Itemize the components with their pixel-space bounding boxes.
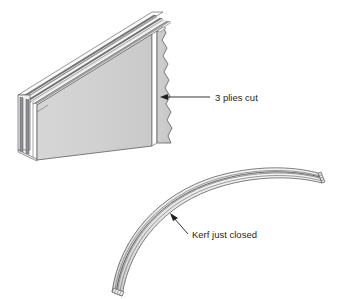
left-edge-ply-dark-2 bbox=[26, 99, 29, 154]
flat-plywood-panel bbox=[18, 12, 172, 161]
plies-cut-label: 3 plies cut bbox=[215, 92, 258, 103]
diagram-canvas: 3 plies cut Kerf just closed bbox=[0, 0, 342, 299]
annotation-kerf-just-closed: Kerf just closed bbox=[170, 213, 257, 240]
panel-strip-torn-edge bbox=[157, 27, 172, 143]
kerf-gap bbox=[152, 31, 157, 146]
annotation-plies-cut: 3 plies cut bbox=[160, 92, 258, 103]
kerf-closed-arrowhead-icon bbox=[170, 213, 178, 221]
panel-left-end-edge bbox=[18, 95, 37, 161]
kerf-just-closed-label: Kerf just closed bbox=[192, 229, 257, 240]
left-edge-ply-dark-1 bbox=[20, 97, 23, 152]
kerf-bending-figure: 3 plies cut Kerf just closed bbox=[0, 0, 342, 299]
kerf-closed-leader-line bbox=[174, 218, 188, 234]
